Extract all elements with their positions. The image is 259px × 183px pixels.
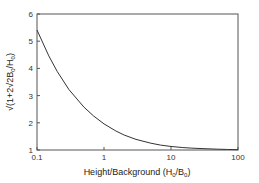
- x-axis-label: Height/Background (H0/B0): [84, 167, 191, 178]
- x-tick-label: 0.1: [31, 153, 43, 162]
- y-tick-label: 6: [29, 10, 34, 19]
- y-axis-label: √(1+2√2B0/H0): [5, 53, 16, 111]
- data-curve: [37, 30, 238, 150]
- x-tick-label: 100: [231, 153, 245, 162]
- y-tick-label: 4: [29, 64, 34, 73]
- y-tick-label: 3: [29, 92, 34, 101]
- plot-frame: [37, 14, 238, 150]
- x-tick-label: 1: [102, 153, 107, 162]
- y-tick-label: 2: [29, 119, 34, 128]
- y-tick-label: 5: [29, 37, 34, 46]
- chart: 123456 0.1110100 Height/Background (H0/B…: [0, 0, 259, 183]
- x-tick-label: 10: [167, 153, 176, 162]
